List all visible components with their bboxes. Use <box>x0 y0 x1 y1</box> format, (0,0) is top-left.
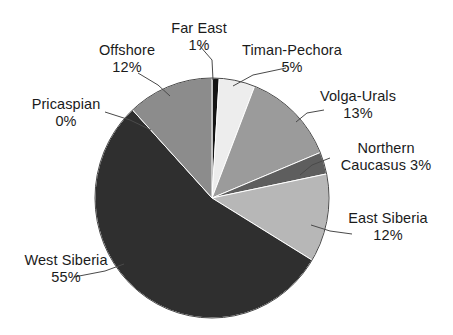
slice-label-timan-pechora: Timan-Pechora 5% <box>233 42 351 76</box>
slice-label-pricaspian: Pricaspian 0% <box>14 96 118 130</box>
slice-label-northern-caucasus-value: Caucasus 3% <box>322 157 450 174</box>
slice-label-pricaspian-name: Pricaspian <box>14 96 118 113</box>
slice-label-volga-urals-name: Volga-Urals <box>306 88 410 105</box>
pie-chart: Far East 1% Timan-Pechora 5% Volga-Urals… <box>0 0 453 335</box>
slice-label-east-siberia: East Siberia 12% <box>336 210 440 244</box>
slice-label-northern-caucasus-name: Northern <box>322 140 450 157</box>
slice-label-timan-pechora-name: Timan-Pechora <box>233 42 351 59</box>
slice-label-west-siberia: West Siberia 55% <box>14 252 118 286</box>
slice-label-offshore-value: 12% <box>78 59 176 76</box>
slice-label-west-siberia-value: 55% <box>14 269 118 286</box>
slice-label-pricaspian-value: 0% <box>14 113 118 130</box>
slice-label-west-siberia-name: West Siberia <box>14 252 118 269</box>
slice-label-northern-caucasus: Northern Caucasus 3% <box>322 140 450 174</box>
slice-label-volga-urals: Volga-Urals 13% <box>306 88 410 122</box>
pie-slices-group <box>95 78 329 318</box>
slice-label-offshore: Offshore 12% <box>78 42 176 76</box>
slice-label-timan-pechora-value: 5% <box>233 59 351 76</box>
slice-label-east-siberia-value: 12% <box>336 227 440 244</box>
slice-label-east-siberia-name: East Siberia <box>336 210 440 227</box>
slice-label-far-east-name: Far East <box>151 20 247 37</box>
slice-label-volga-urals-value: 13% <box>306 105 410 122</box>
slice-label-offshore-name: Offshore <box>78 42 176 59</box>
